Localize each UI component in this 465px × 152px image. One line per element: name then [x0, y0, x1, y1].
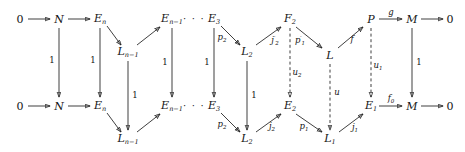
commutative-diagram: 0NEnLn−1En−1E3L2F2LPM00NEnLn−1En−1E3L2E2… — [0, 0, 465, 152]
n_E3_t: E3 — [208, 13, 220, 25]
lbl_f0: f0 — [388, 94, 395, 104]
lbl_p2_top: p2 — [218, 33, 227, 43]
dots_top: · · · — [183, 13, 205, 24]
lbl_id_N: 1 — [49, 56, 54, 65]
lbl_u1: u1 — [374, 61, 383, 71]
arrow-a_En_Lnm1_t — [107, 26, 121, 45]
n_zero_tl: 0 — [17, 14, 24, 25]
n_P_t: P — [367, 14, 374, 25]
n_M_b: M — [406, 101, 417, 112]
n_Enm1_t: En−1 — [161, 13, 183, 25]
n_F2_t: F2 — [284, 13, 296, 25]
lbl_id_E3: 1 — [204, 58, 209, 67]
n_N_b: N — [54, 101, 64, 112]
arrow-a_Lnm1_Enm1_t — [137, 27, 160, 45]
lbl_u2: u2 — [293, 68, 302, 78]
n_En_t: En — [94, 13, 106, 25]
lbl_g: g — [388, 8, 393, 17]
n_Lnm1_t: Ln−1 — [117, 46, 138, 58]
n_En_b: En — [94, 100, 106, 112]
lbl_id_Lnm1: 1 — [132, 91, 137, 100]
n_N_t: N — [54, 14, 64, 25]
lbl_id_M: 1 — [416, 58, 421, 67]
lbl_u: u — [334, 88, 339, 97]
n_L_t: L — [326, 50, 333, 61]
lbl_p1_bot: p1 — [300, 122, 309, 132]
lbl_id_L2: 1 — [251, 91, 256, 100]
dots_bottom: · · · — [183, 100, 205, 111]
n_Enm1_b: En−1 — [161, 100, 183, 112]
lbl_p2_bot: p2 — [218, 120, 227, 130]
n_L2_b: L2 — [241, 133, 252, 145]
n_zero_tr: 0 — [447, 14, 454, 25]
arrow-a_Lnm1_Enm1_b — [137, 114, 160, 132]
n_L1_b: L1 — [324, 133, 335, 145]
n_Lnm1_b: Ln−1 — [117, 133, 138, 145]
lbl_f: f — [350, 35, 353, 44]
lbl_id_Enm1: 1 — [162, 58, 167, 67]
lbl_j2p: j′2 — [271, 36, 278, 46]
n_E2_b: E2 — [284, 100, 296, 112]
lbl_j2: j2 — [269, 122, 275, 132]
n_zero_br: 0 — [447, 101, 454, 112]
lbl_j1: j1 — [352, 123, 358, 133]
n_M_t: M — [406, 14, 417, 25]
n_E3_b: E3 — [208, 100, 220, 112]
n_zero_bl: 0 — [17, 101, 24, 112]
n_L2_t: L2 — [241, 46, 252, 58]
arrow-layer — [0, 0, 465, 152]
lbl_p1p: p′1 — [295, 36, 305, 46]
arrow-a_En_Lnm1_b — [107, 113, 121, 132]
n_E1_b: E1 — [365, 100, 377, 112]
lbl_id_En: 1 — [90, 56, 95, 65]
